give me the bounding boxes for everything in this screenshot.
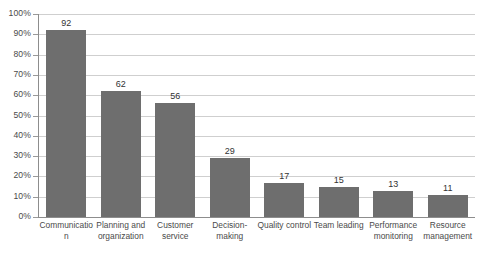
x-axis-category-label: Team leading: [312, 220, 367, 231]
bar[interactable]: [210, 158, 250, 217]
x-axis-category-label: Quality control: [257, 220, 312, 231]
bar[interactable]: [101, 91, 141, 217]
bar[interactable]: [46, 30, 86, 217]
x-axis-category-label: Resource management: [421, 220, 476, 241]
x-axis-category-label: Customer service: [148, 220, 203, 241]
bar-group: 92: [46, 14, 86, 217]
bar[interactable]: [264, 183, 304, 218]
x-axis-category-label: Planning and organization: [94, 220, 149, 241]
bar-group: 62: [101, 14, 141, 217]
x-axis-category-label: Decision-making: [203, 220, 258, 241]
y-axis-tick-label: 30%: [0, 151, 31, 160]
bar-value-label: 62: [101, 79, 141, 89]
bar[interactable]: [373, 191, 413, 217]
y-axis-tick-label: 50%: [0, 111, 31, 120]
bar-group: 11: [428, 14, 468, 217]
bar[interactable]: [155, 103, 195, 217]
bar-value-label: 56: [155, 91, 195, 101]
y-axis-tick-label: 100%: [0, 9, 31, 18]
x-axis-category-label: Communication: [39, 220, 94, 241]
y-axis-tick-label: 0%: [0, 212, 31, 221]
bar[interactable]: [319, 187, 359, 217]
y-axis-tick-label: 40%: [0, 131, 31, 140]
bar[interactable]: [428, 195, 468, 217]
y-axis-tick-label: 70%: [0, 70, 31, 79]
bar-value-label: 15: [319, 175, 359, 185]
y-axis: 100%90%80%70%60%50%40%30%20%10%0%: [0, 0, 31, 267]
x-axis-baseline: [38, 217, 475, 218]
y-axis-tick-label: 90%: [0, 29, 31, 38]
y-axis-tick-label: 10%: [0, 192, 31, 201]
bar-group: 29: [210, 14, 250, 217]
bar-group: 13: [373, 14, 413, 217]
bar-value-label: 13: [373, 179, 413, 189]
y-axis-tick-label: 60%: [0, 90, 31, 99]
y-axis-tick-label: 20%: [0, 171, 31, 180]
bar-value-label: 92: [46, 18, 86, 28]
bar-value-label: 11: [428, 183, 468, 193]
bar-value-label: 29: [210, 146, 250, 156]
bar-value-label: 17: [264, 171, 304, 181]
x-axis-category-label: Performance monitoring: [366, 220, 421, 241]
bar-group: 56: [155, 14, 195, 217]
bar-chart: 100%90%80%70%60%50%40%30%20%10%0% 926256…: [0, 0, 488, 267]
y-axis-tick-label: 80%: [0, 50, 31, 59]
x-axis-category-labels: CommunicationPlanning and organizationCu…: [39, 220, 475, 267]
plot-area: 9262562917151311: [39, 14, 475, 217]
bar-group: 17: [264, 14, 304, 217]
bar-group: 15: [319, 14, 359, 217]
